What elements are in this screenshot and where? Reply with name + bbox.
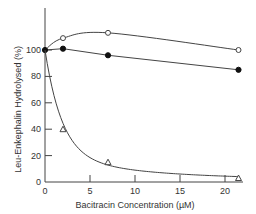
y-axis-label: Leu-Enkephalin Hydrolysed (%): [13, 46, 23, 173]
x-tick-label: 15: [175, 186, 185, 196]
data-point-open-circle: [61, 36, 66, 41]
x-axis-label: Bacitracin Concentration (µM): [75, 200, 194, 210]
y-tick-label: 100: [26, 45, 41, 55]
data-point-open-circle: [236, 48, 241, 53]
data-point-open-triangle: [236, 175, 242, 181]
chart: 05101520020406080100Bacitracin Concentra…: [0, 0, 256, 214]
series-line-open-circle: [45, 32, 239, 50]
y-tick-label: 0: [36, 177, 41, 187]
data-point-open-triangle: [105, 159, 111, 165]
series-line-open-triangle: [45, 50, 239, 177]
x-tick-label: 10: [130, 186, 140, 196]
data-point-filled-circle: [105, 53, 110, 58]
y-tick-label: 40: [31, 124, 41, 134]
data-point-filled-circle: [236, 67, 241, 72]
x-tick-label: 5: [87, 186, 92, 196]
x-tick-label: 0: [42, 186, 47, 196]
y-tick-label: 20: [31, 151, 41, 161]
y-tick-label: 60: [31, 98, 41, 108]
data-point-open-circle: [106, 30, 111, 35]
y-tick-label: 80: [31, 71, 41, 81]
series-line-filled-circle: [45, 49, 239, 70]
x-tick-label: 20: [220, 186, 230, 196]
data-point-filled-circle: [60, 46, 65, 51]
